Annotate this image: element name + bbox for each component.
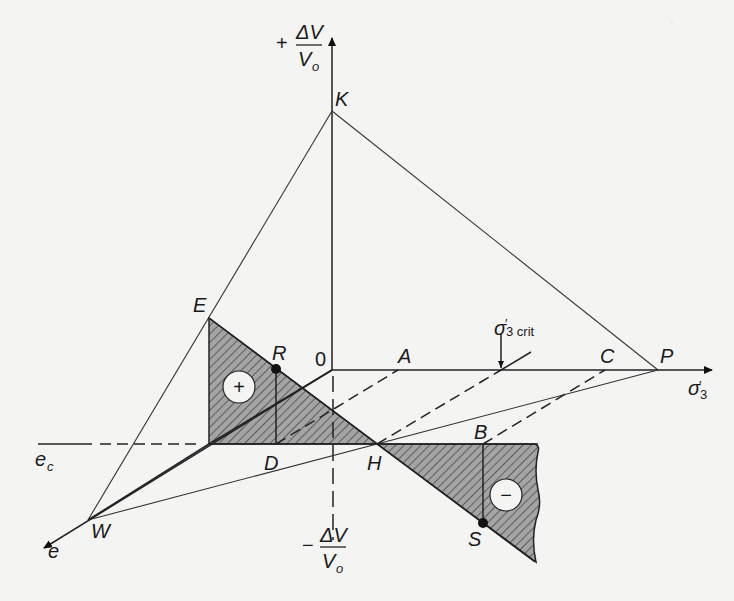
svg-text:o: o xyxy=(312,59,319,74)
label-R: R xyxy=(272,342,286,364)
svg-text:e: e xyxy=(35,448,46,470)
label-P: P xyxy=(660,345,674,367)
label-D: D xyxy=(264,452,278,474)
label-A: A xyxy=(397,345,411,367)
svg-text:3 crit: 3 crit xyxy=(506,324,535,339)
label-H: H xyxy=(367,452,382,474)
line-W-base xyxy=(88,444,209,520)
label-S: S xyxy=(468,528,482,550)
label-E: E xyxy=(193,294,207,316)
svg-text:−: − xyxy=(302,534,314,556)
positive-sign-icon: + xyxy=(223,371,255,403)
svg-text:V: V xyxy=(298,48,313,70)
svg-text:+: + xyxy=(233,376,245,398)
point-R-marker xyxy=(271,364,281,374)
label-C: C xyxy=(600,345,615,367)
line-W-P xyxy=(88,370,658,520)
label-origin: 0 xyxy=(315,348,326,370)
svg-text:−: − xyxy=(500,484,512,506)
line-K-W xyxy=(88,111,332,520)
vertical-axis-negative-label: − ΔV V o xyxy=(302,524,348,576)
svg-text:+: + xyxy=(276,32,288,54)
svg-text:ΔV: ΔV xyxy=(319,524,348,546)
diagram-canvas: + − + ΔV V o − ΔV V o σ ′ 3 σ ′ 3 crit e… xyxy=(0,0,734,601)
label-W: W xyxy=(91,520,112,542)
ec-label: e c xyxy=(35,448,54,474)
svg-text:3: 3 xyxy=(700,387,707,402)
svg-text:ΔV: ΔV xyxy=(295,21,324,43)
svg-text:o: o xyxy=(336,561,343,576)
vertical-axis-positive-label: + ΔV V o xyxy=(276,21,324,74)
negative-sign-icon: − xyxy=(490,479,522,511)
sigma3-crit-label: σ ′ 3 crit xyxy=(494,316,535,339)
label-B: B xyxy=(474,421,487,443)
line-B-C xyxy=(483,370,605,444)
sigma3-axis-label: σ ′ 3 xyxy=(688,377,707,402)
svg-text:V: V xyxy=(322,550,337,572)
line-crit-extension xyxy=(501,352,531,370)
label-K: K xyxy=(335,88,350,110)
e-axis-label: e xyxy=(48,540,59,562)
svg-text:c: c xyxy=(47,459,54,474)
point-S-marker xyxy=(478,518,488,528)
